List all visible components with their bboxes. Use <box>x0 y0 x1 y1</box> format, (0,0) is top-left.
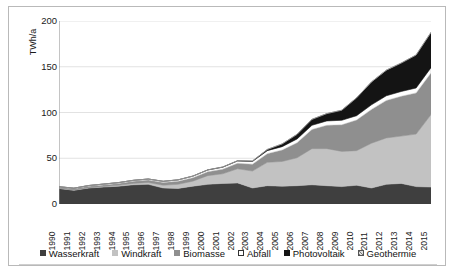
legend-swatch <box>238 250 244 256</box>
legend-item: Wasserkraft <box>40 248 99 259</box>
y-axis-tick: 150 <box>31 62 57 72</box>
legend-swatch <box>284 250 290 256</box>
legend-item: Geothermie <box>358 248 417 259</box>
legend-item: Biomasse <box>174 248 225 259</box>
legend-item: Abfall <box>238 248 271 259</box>
x-axis-tick-labels: 1990199119921993199419951996199719981999… <box>59 206 431 250</box>
legend-label: Geothermie <box>367 248 417 259</box>
legend-label: Abfall <box>247 248 271 259</box>
plot-container: TWh/a 050100150200 199019911992199319941… <box>9 7 447 267</box>
chart-figure: TWh/a 050100150200 199019911992199319941… <box>8 6 446 266</box>
legend-item: Photovoltaik <box>284 248 345 259</box>
stacked-area-plot <box>59 21 431 204</box>
legend-label: Windkraft <box>121 248 161 259</box>
legend-label: Photovoltaik <box>293 248 345 259</box>
legend-swatch <box>358 250 364 256</box>
y-axis-tick: 0 <box>31 199 57 209</box>
y-axis-tick-labels: 050100150200 <box>31 7 57 267</box>
legend-swatch <box>40 250 46 256</box>
legend-swatch <box>112 250 118 256</box>
y-axis-tick: 200 <box>31 16 57 26</box>
legend-divider <box>19 264 437 265</box>
legend-label: Wasserkraft <box>49 248 99 259</box>
chart-svg <box>59 21 431 204</box>
legend-swatch <box>174 250 180 256</box>
legend-label: Biomasse <box>183 248 225 259</box>
y-axis-tick: 100 <box>31 108 57 118</box>
y-axis-tick: 50 <box>31 153 57 163</box>
chart-legend: WasserkraftWindkraftBiomasseAbfallPhotov… <box>9 245 447 261</box>
legend-item: Windkraft <box>112 248 161 259</box>
